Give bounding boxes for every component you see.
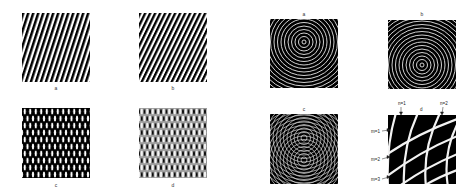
annotation-arrows (0, 0, 471, 194)
